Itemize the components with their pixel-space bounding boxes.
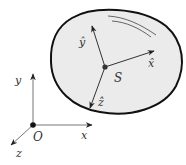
label-x-hat: x̂	[148, 57, 155, 70]
label-inertial-z: z	[15, 147, 22, 160]
origin-point	[30, 122, 36, 128]
label-inertial-y: y	[14, 74, 22, 87]
rigid-body-diagram: ŷ x̂ ẑ S y x z O	[0, 0, 186, 165]
label-y-hat: ŷ	[78, 36, 86, 49]
label-inertial-x: x	[81, 129, 88, 142]
inertial-axis-z	[11, 125, 33, 145]
rigid-body-shape	[51, 10, 182, 114]
body-center-point	[102, 64, 107, 69]
label-body-center: S	[114, 71, 122, 85]
label-z-hat: ẑ	[97, 96, 104, 109]
label-origin: O	[33, 130, 43, 144]
